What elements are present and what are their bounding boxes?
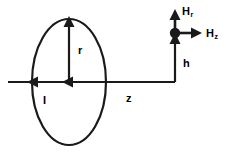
field-axial-label: Hz (206, 28, 217, 39)
height-label: h (183, 58, 190, 69)
field-axial-subscript: z (214, 33, 218, 40)
diagram-canvas (0, 0, 234, 152)
field-radial-base: H (182, 5, 190, 17)
radius-label: r (78, 45, 82, 56)
current-loop-field-diagram: r I z h Hr Hz (0, 0, 234, 152)
field-axial-base: H (206, 27, 214, 39)
hr-arrowhead-icon (170, 9, 181, 20)
center-arrowhead-icon (62, 77, 73, 88)
axial-distance-label: z (126, 93, 132, 104)
hz-arrowhead-icon (191, 28, 202, 39)
field-radial-label: Hr (182, 6, 193, 17)
field-radial-subscript: r (190, 11, 193, 18)
radius-arrowhead-icon (64, 16, 75, 27)
current-label: I (43, 95, 46, 106)
